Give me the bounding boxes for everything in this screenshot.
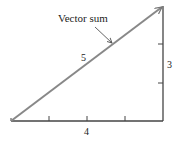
caption-leader-arrow <box>95 27 112 43</box>
vertical-ticks <box>158 44 163 83</box>
horizontal-ticks <box>49 116 125 121</box>
diagram-canvas: Vector sum 5 4 3 <box>0 0 178 141</box>
vertical-length-label: 3 <box>167 59 172 70</box>
horizontal-length-label: 4 <box>84 126 89 137</box>
resultant-length-label: 5 <box>81 52 86 63</box>
vector-sum-diagram: Vector sum 5 4 3 <box>0 0 178 141</box>
resultant-caption: Vector sum <box>58 12 108 24</box>
resultant-vector-arrow <box>11 7 162 121</box>
